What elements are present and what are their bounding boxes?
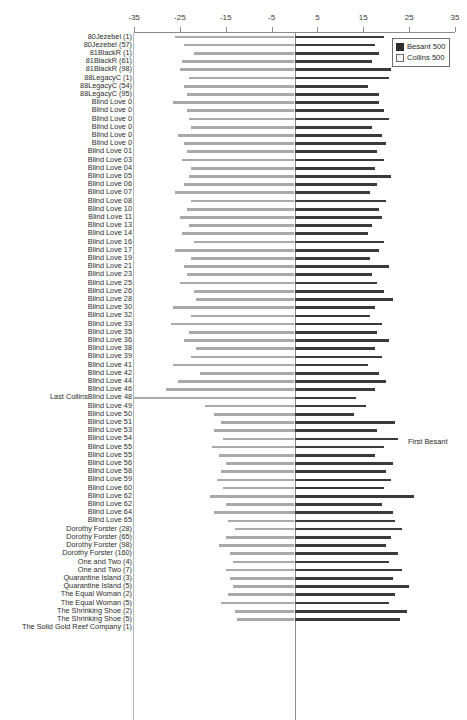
bar-besant — [295, 200, 387, 203]
bar-collins — [173, 364, 295, 367]
chart-row: Blind Love 28 — [0, 296, 467, 304]
chart-row: Blind Love 08 — [0, 197, 467, 205]
bar-besant — [295, 446, 384, 449]
bar-collins — [237, 618, 294, 621]
x-tick — [226, 27, 227, 32]
bar-collins — [189, 118, 294, 121]
bar-besant — [295, 602, 389, 605]
chart-row: Blind Love 17 — [0, 246, 467, 254]
bar-besant — [295, 429, 378, 432]
bar-collins — [228, 593, 294, 596]
bar-besant — [295, 528, 403, 531]
bar-collins — [210, 495, 295, 498]
bar-besant — [295, 405, 366, 408]
chart-row: Blind Love 30 — [0, 304, 467, 312]
bar-besant — [295, 438, 398, 441]
chart-row: Blind Love 62 — [0, 501, 467, 509]
bar-besant — [295, 175, 391, 178]
bar-collins — [214, 413, 294, 416]
bar-besant — [295, 118, 389, 121]
bar-besant — [295, 569, 403, 572]
chart-row: Blind Love 64 — [0, 509, 467, 517]
bar-besant — [295, 183, 378, 186]
chart-row: Blind Love 13 — [0, 222, 467, 230]
bar-collins — [235, 528, 295, 531]
chart-row: 81BlackR (98) — [0, 66, 467, 74]
bar-collins — [233, 585, 295, 588]
bar-besant — [295, 77, 389, 80]
bar-besant — [295, 479, 391, 482]
bar-besant — [295, 68, 391, 71]
bar-collins — [189, 175, 294, 178]
chart-row: Blind Love 0 — [0, 99, 467, 107]
bar-collins — [226, 462, 295, 465]
chart-row: Blind Love 14 — [0, 230, 467, 238]
chart-row: Blind Love 39 — [0, 353, 467, 361]
chart-row: Blind Love 11 — [0, 213, 467, 221]
bar-collins — [173, 306, 295, 309]
bar-besant — [295, 85, 368, 88]
bar-collins — [178, 134, 295, 137]
bar-collins — [184, 339, 294, 342]
bar-collins — [187, 273, 295, 276]
chart-row: The Solid Gold Reef Company (1) — [0, 624, 467, 632]
bar-besant — [295, 380, 387, 383]
x-tick-label: -5 — [268, 13, 275, 22]
row-label: The Solid Gold Reef Company (1) — [22, 623, 132, 631]
x-axis: -35-25-15-55152535 — [0, 0, 467, 34]
annotation-first-besant: First Besant — [408, 437, 447, 446]
bar-collins — [217, 479, 295, 482]
chart-row: Blind Love 0 — [0, 115, 467, 123]
bar-besant — [295, 315, 371, 318]
bar-besant — [295, 388, 375, 391]
bar-besant — [295, 306, 375, 309]
bar-collins — [221, 470, 294, 473]
bar-collins — [223, 487, 294, 490]
chart-row: Blind Love 60 — [0, 484, 467, 492]
bar-collins — [228, 520, 294, 523]
chart-row: Blind Love 19 — [0, 254, 467, 262]
bar-besant — [295, 495, 414, 498]
bar-collins — [182, 159, 294, 162]
x-tick-label: 15 — [359, 13, 368, 22]
bar-besant — [295, 101, 380, 104]
bar-besant — [295, 544, 387, 547]
bar-collins — [194, 241, 295, 244]
bar-collins — [184, 44, 294, 47]
bar-besant — [295, 413, 355, 416]
x-tick-label: 5 — [315, 13, 319, 22]
x-tick-label: 25 — [405, 13, 414, 22]
chart-row: Blind Love 03 — [0, 156, 467, 164]
x-tick — [134, 27, 135, 32]
chart-row: Blind Love 25 — [0, 279, 467, 287]
bar-besant — [295, 397, 357, 400]
x-tick — [180, 27, 181, 32]
bar-besant — [295, 462, 394, 465]
chart-row: Blind Love 01 — [0, 148, 467, 156]
chart-row: Blind Love 0 — [0, 107, 467, 115]
chart-row: 88LegacyC (1) — [0, 74, 467, 82]
legend-label-besant: Besant 500 — [407, 42, 445, 51]
chart-row: Blind Love 54 — [0, 435, 467, 443]
bar-collins — [187, 150, 295, 153]
bar-besant — [295, 208, 380, 211]
x-tick — [363, 27, 364, 32]
chart-row: Blind Love 55 — [0, 443, 467, 451]
bar-besant — [295, 60, 373, 63]
chart-row: Dorothy Forster (160) — [0, 550, 467, 558]
bar-besant — [295, 216, 382, 219]
chart-row: Blind Love 58 — [0, 468, 467, 476]
bar-besant — [295, 249, 380, 252]
bar-collins — [184, 85, 294, 88]
bar-besant — [295, 257, 371, 260]
chart-root: -35-25-15-55152535 80Jezebel (1)80Jezebe… — [0, 0, 467, 720]
bar-collins — [166, 388, 294, 391]
x-tick — [272, 27, 273, 32]
bar-besant — [295, 273, 373, 276]
chart-row: Blind Love 41 — [0, 361, 467, 369]
bar-besant — [295, 323, 382, 326]
bar-besant — [295, 364, 368, 367]
x-tick-label: 35 — [451, 13, 460, 22]
chart-row: Blind Love 49 — [0, 402, 467, 410]
bar-collins — [191, 167, 294, 170]
